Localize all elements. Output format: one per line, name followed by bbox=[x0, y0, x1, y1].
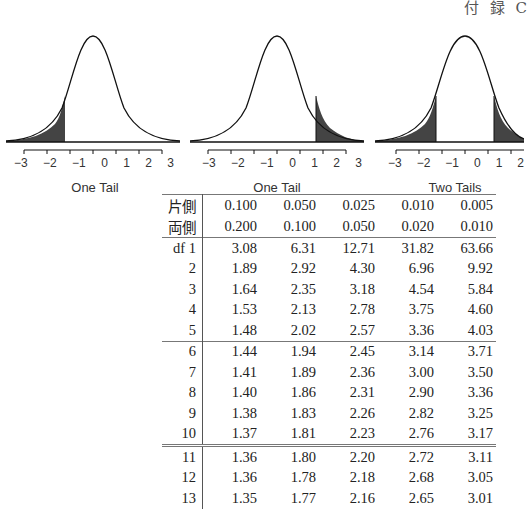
figure-one-tail-right bbox=[190, 28, 370, 158]
value-cell: 3.08 bbox=[203, 238, 261, 259]
value-cell: 2.36 bbox=[319, 362, 378, 383]
value-cell: 1.37 bbox=[203, 424, 261, 446]
value-cell: 2.65 bbox=[378, 488, 437, 509]
header-row-one-sided: 片側 0.100 0.050 0.025 0.010 0.005 bbox=[162, 195, 496, 217]
value-cell: 2.02 bbox=[260, 320, 319, 341]
value-cell: 1.83 bbox=[260, 403, 319, 424]
value-cell: 3.11 bbox=[437, 446, 496, 468]
table-row: 101.371.812.232.763.17 bbox=[162, 424, 496, 446]
value-cell: 2.78 bbox=[319, 300, 378, 321]
value-cell: 3.14 bbox=[378, 341, 437, 362]
value-cell: 3.01 bbox=[437, 488, 496, 509]
df-cell: 7 bbox=[162, 362, 203, 383]
value-cell: 3.75 bbox=[378, 300, 437, 321]
value-cell: 2.57 bbox=[319, 320, 378, 341]
value-cell: 12.71 bbox=[319, 238, 378, 259]
df-cell: 2 bbox=[162, 259, 203, 280]
df-cell: 5 bbox=[162, 320, 203, 341]
table-row: df 13.086.3112.7131.8263.66 bbox=[162, 238, 496, 259]
value-cell: 1.36 bbox=[203, 468, 261, 489]
figure-one-tail-left bbox=[0, 28, 180, 158]
df-cell: 8 bbox=[162, 383, 203, 404]
table-row: 91.381.832.262.823.25 bbox=[162, 403, 496, 424]
page-header: 付 録 C bbox=[464, 0, 530, 17]
df-cell: 6 bbox=[162, 341, 203, 362]
value-cell: 2.92 bbox=[260, 259, 319, 280]
value-cell: 2.76 bbox=[378, 424, 437, 446]
value-cell: 3.25 bbox=[437, 403, 496, 424]
caption-one-tail-left: One Tail bbox=[50, 180, 140, 195]
value-cell: 1.78 bbox=[260, 468, 319, 489]
df-cell: 11 bbox=[162, 446, 203, 468]
table-row: 61.441.942.453.143.71 bbox=[162, 341, 496, 362]
value-cell: 2.90 bbox=[378, 383, 437, 404]
df-cell: 4 bbox=[162, 300, 203, 321]
value-cell: 2.20 bbox=[319, 446, 378, 468]
value-cell: 2.18 bbox=[319, 468, 378, 489]
table-row: 131.351.772.162.653.01 bbox=[162, 488, 496, 509]
value-cell: 2.45 bbox=[319, 341, 378, 362]
value-cell: 5.84 bbox=[437, 279, 496, 300]
df-cell: 12 bbox=[162, 468, 203, 489]
table-row: 111.361.802.202.723.11 bbox=[162, 446, 496, 468]
caption-two-tails: Two Tails bbox=[400, 180, 510, 195]
axis-ticks-3: −3−2−1012 bbox=[388, 156, 524, 170]
value-cell: 1.48 bbox=[203, 320, 261, 341]
value-cell: 3.36 bbox=[437, 383, 496, 404]
value-cell: 1.89 bbox=[260, 362, 319, 383]
value-cell: 1.80 bbox=[260, 446, 319, 468]
value-cell: 1.40 bbox=[203, 383, 261, 404]
value-cell: 1.89 bbox=[203, 259, 261, 280]
figure-two-tails bbox=[375, 28, 524, 158]
axis-ticks-2: −3−2−10123 bbox=[202, 156, 362, 170]
value-cell: 4.54 bbox=[378, 279, 437, 300]
value-cell: 3.17 bbox=[437, 424, 496, 446]
value-cell: 2.16 bbox=[319, 488, 378, 509]
value-cell: 31.82 bbox=[378, 238, 437, 259]
value-cell: 1.36 bbox=[203, 446, 261, 468]
table-row: 51.482.022.573.364.03 bbox=[162, 320, 496, 341]
value-cell: 63.66 bbox=[437, 238, 496, 259]
t-distribution-table: 片側 0.100 0.050 0.025 0.010 0.005 両側 0.20… bbox=[162, 194, 496, 509]
axis-ticks-1: −3−2−10123 bbox=[14, 156, 174, 170]
table-row: 41.532.132.783.754.60 bbox=[162, 300, 496, 321]
value-cell: 3.71 bbox=[437, 341, 496, 362]
value-cell: 2.72 bbox=[378, 446, 437, 468]
value-cell: 1.77 bbox=[260, 488, 319, 509]
value-cell: 6.31 bbox=[260, 238, 319, 259]
value-cell: 2.35 bbox=[260, 279, 319, 300]
value-cell: 1.38 bbox=[203, 403, 261, 424]
value-cell: 1.81 bbox=[260, 424, 319, 446]
table-row: 121.361.782.182.683.05 bbox=[162, 468, 496, 489]
df-cell: 3 bbox=[162, 279, 203, 300]
value-cell: 2.13 bbox=[260, 300, 319, 321]
value-cell: 2.26 bbox=[319, 403, 378, 424]
value-cell: 6.96 bbox=[378, 259, 437, 280]
value-cell: 3.05 bbox=[437, 468, 496, 489]
value-cell: 2.31 bbox=[319, 383, 378, 404]
value-cell: 1.53 bbox=[203, 300, 261, 321]
df-cell: 10 bbox=[162, 424, 203, 446]
value-cell: 4.03 bbox=[437, 320, 496, 341]
table-row: 71.411.892.363.003.50 bbox=[162, 362, 496, 383]
value-cell: 1.86 bbox=[260, 383, 319, 404]
value-cell: 2.23 bbox=[319, 424, 378, 446]
table-row: 21.892.924.306.969.92 bbox=[162, 259, 496, 280]
df-cell: 9 bbox=[162, 403, 203, 424]
header-row-two-sided: 両側 0.200 0.100 0.050 0.020 0.010 bbox=[162, 216, 496, 238]
df-cell: df 1 bbox=[162, 238, 203, 259]
value-cell: 3.00 bbox=[378, 362, 437, 383]
table-row: 31.642.353.184.545.84 bbox=[162, 279, 496, 300]
value-cell: 9.92 bbox=[437, 259, 496, 280]
value-cell: 1.41 bbox=[203, 362, 261, 383]
caption-one-tail-right: One Tail bbox=[232, 180, 322, 195]
value-cell: 1.35 bbox=[203, 488, 261, 509]
df-cell: 13 bbox=[162, 488, 203, 509]
value-cell: 2.68 bbox=[378, 468, 437, 489]
value-cell: 1.94 bbox=[260, 341, 319, 362]
value-cell: 3.18 bbox=[319, 279, 378, 300]
value-cell: 3.36 bbox=[378, 320, 437, 341]
value-cell: 4.60 bbox=[437, 300, 496, 321]
value-cell: 1.44 bbox=[203, 341, 261, 362]
value-cell: 4.30 bbox=[319, 259, 378, 280]
